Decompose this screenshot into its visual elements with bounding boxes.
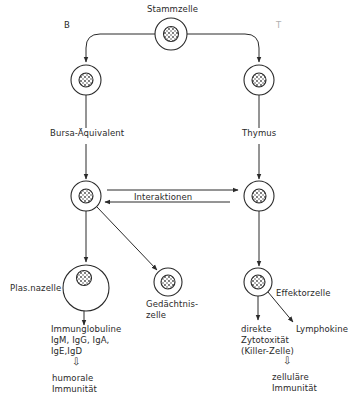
plasma-cell-label: Plas.nazelle: [10, 283, 61, 294]
plasma-cell: [63, 265, 109, 311]
stem-cell: [155, 18, 187, 50]
cellular-immunity-label: zelluläre Immunität: [272, 372, 317, 394]
cellular-implies-arrow: ⇩: [283, 355, 291, 366]
t-lymphocyte-cell: [244, 181, 274, 211]
stem-cell-label: Stammzelle: [147, 4, 198, 15]
b-lymphocyte-cell: [71, 181, 101, 211]
effector-cell: [244, 268, 272, 296]
t-precursor-cell: [244, 65, 274, 95]
humoral-immunity-label: humorale Immunität: [52, 373, 97, 395]
stem-to-t-arrow: [187, 34, 259, 62]
interactions-label: Interaktionen: [134, 192, 192, 203]
memory-cell-label: Gedächtnis- zelle: [146, 299, 198, 321]
b-to-memory-arrow: [97, 207, 157, 270]
cytotoxicity-label: direkte Zytotoxität (Killer-Zelle): [241, 324, 294, 357]
memory-cell: [154, 268, 182, 296]
b-precursor-cell: [71, 65, 101, 95]
effector-cell-label: Effektorzelle: [276, 288, 330, 299]
bursa-equivalent-label: Bursa-Äquivalent: [50, 128, 124, 139]
humoral-implies-arrow: ⇩: [72, 356, 80, 367]
b-branch-label: B: [64, 20, 70, 31]
lymphokines-label: Lymphokine: [296, 324, 348, 335]
stem-to-b-arrow: [86, 34, 155, 62]
thymus-label: Thymus: [242, 128, 276, 139]
immunoglobulins-label: Immunglobuline IgM, IgG, IgA, IgE,IgD: [51, 324, 121, 357]
t-branch-label: T: [276, 20, 281, 31]
